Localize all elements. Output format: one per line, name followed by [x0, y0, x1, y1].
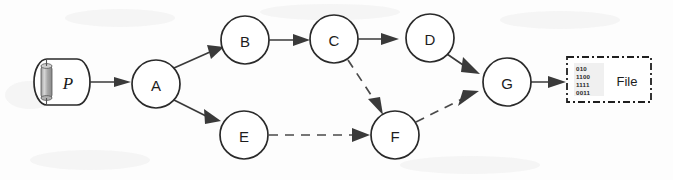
node-g[interactable]: G: [483, 58, 531, 106]
edge-p-to-a: [90, 77, 131, 87]
node-d-label: D: [425, 31, 436, 48]
edge-b-to-c: [270, 34, 310, 46]
program-source-label: P: [62, 74, 73, 93]
node-b-label: B: [240, 33, 250, 50]
edge-c-to-d: [359, 33, 399, 45]
edge-d-to-g: [447, 54, 480, 74]
edge-g-to-file: [531, 76, 566, 88]
binary-line-1: 010: [576, 65, 587, 72]
file-output-label: File: [617, 74, 638, 89]
program-source-node[interactable]: P: [34, 59, 90, 105]
edge-a-to-e: [174, 100, 221, 124]
node-c[interactable]: C: [310, 15, 358, 63]
edge-a-to-b: [174, 45, 224, 68]
node-c-label: C: [329, 32, 340, 49]
node-e[interactable]: E: [220, 111, 268, 159]
node-g-label: G: [501, 75, 513, 92]
workflow-dag-svg: P: [0, 0, 673, 180]
binary-line-3: 1111: [576, 81, 590, 88]
node-a-label: A: [151, 77, 161, 94]
diagram-canvas: P: [0, 0, 673, 180]
binary-line-2: 1100: [576, 73, 591, 80]
edge-f-to-g: [416, 90, 479, 122]
binary-data-icon: 010 1100 1111 0011: [574, 63, 604, 96]
node-e-label: E: [239, 128, 249, 145]
file-output-node[interactable]: 010 1100 1111 0011 File: [567, 57, 651, 102]
node-d[interactable]: D: [406, 14, 454, 62]
edge-c-to-f: [348, 60, 383, 115]
binary-line-4: 0011: [576, 89, 591, 96]
node-f[interactable]: F: [371, 111, 419, 159]
node-f-label: F: [390, 128, 399, 145]
edge-e-to-f: [269, 128, 370, 142]
node-b[interactable]: B: [221, 16, 269, 64]
tape-spindle-icon: [41, 60, 52, 104]
node-a[interactable]: A: [132, 60, 180, 108]
